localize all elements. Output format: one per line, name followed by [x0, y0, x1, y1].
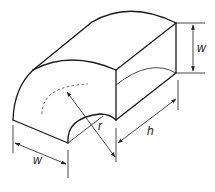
right-width-dimension: w: [177, 23, 207, 73]
curved-bar-diagram: r w h w: [0, 0, 215, 192]
top-right-diagonal: [116, 23, 176, 70]
radius-label: r: [98, 119, 103, 133]
bottom-right-edge: [116, 73, 176, 120]
length-label: h: [147, 124, 154, 138]
front-width-dimension: w: [13, 125, 68, 178]
width-label-front: w: [33, 153, 43, 167]
front-bottom-edge: [13, 120, 68, 143]
front-top-arc: [33, 60, 116, 70]
width-label-right: w: [197, 41, 207, 55]
inner-arc: [68, 114, 116, 143]
right-face-inner-curve: [116, 68, 176, 85]
centerline-dashed-arc: [42, 84, 88, 114]
length-dimension: h: [116, 80, 178, 162]
outer-left-arc: [13, 70, 33, 120]
